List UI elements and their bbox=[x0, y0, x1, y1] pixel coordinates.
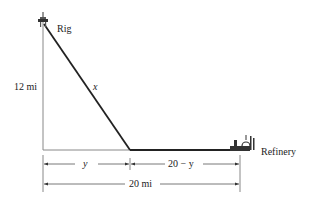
refinery-icon bbox=[230, 135, 255, 151]
dimension-20-minus-y: 20 − y bbox=[131, 158, 239, 169]
dimension-total: 20 mi bbox=[44, 178, 239, 189]
segment-y-label: y bbox=[82, 158, 88, 169]
total-distance-label: 20 mi bbox=[129, 178, 152, 189]
segment-20-minus-y-label: 20 − y bbox=[168, 158, 194, 169]
pipeline-underwater bbox=[44, 24, 130, 150]
hypotenuse-label: x bbox=[92, 81, 98, 92]
dimension-y: y bbox=[44, 158, 129, 169]
rig-label: Rig bbox=[57, 23, 71, 34]
refinery-label: Refinery bbox=[261, 146, 296, 157]
rig-to-refinery-diagram: Rig Refinery 12 mi x y 20 − y 20 mi bbox=[0, 0, 316, 204]
vertical-distance-label: 12 mi bbox=[14, 81, 37, 92]
